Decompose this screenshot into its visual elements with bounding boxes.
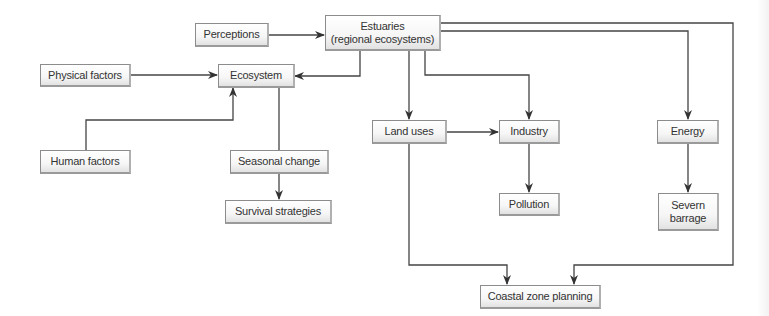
node-coastal-zone-planning: Coastal zone planning (480, 285, 601, 309)
node-label: Pollution (509, 198, 549, 211)
edge-estuaries-industry (425, 51, 529, 119)
node-human-factors: Human factors (40, 150, 131, 174)
page-edge-shadow (757, 0, 769, 316)
node-pollution: Pollution (499, 193, 560, 216)
node-land-uses: Land uses (372, 120, 447, 144)
edge-human-ecosystem (86, 88, 233, 150)
node-label: Seasonal change (238, 155, 320, 168)
edge-estuaries-coastal (441, 23, 733, 284)
node-seasonal-change: Seasonal change (230, 150, 329, 174)
node-label: Land uses (385, 125, 434, 138)
node-industry: Industry (499, 120, 560, 144)
node-label: Survival strategies (235, 205, 321, 218)
node-label: Ecosystem (230, 69, 282, 82)
node-physical-factors: Physical factors (40, 64, 131, 87)
node-survival-strategies: Survival strategies (225, 200, 332, 224)
node-estuaries: Estuaries (regional ecosystems) (325, 15, 441, 51)
node-energy: Energy (657, 120, 719, 144)
node-label: Severn barrage (670, 199, 707, 225)
node-label: Coastal zone planning (488, 290, 593, 303)
node-severn-barrage: Severn barrage (658, 193, 719, 231)
node-label: Estuaries (regional ecosystems) (331, 20, 434, 46)
node-label: Energy (671, 125, 705, 138)
node-label: Human factors (51, 155, 120, 168)
edge-landuses-coastal (409, 144, 507, 284)
node-label: Industry (510, 125, 548, 138)
node-label: Perceptions (204, 28, 260, 41)
node-perceptions: Perceptions (195, 23, 269, 47)
node-ecosystem: Ecosystem (218, 64, 295, 88)
estuaries-concept-diagram: Perceptions Estuaries (regional ecosyste… (0, 0, 769, 316)
node-label: Physical factors (48, 69, 122, 82)
edge-estuaries-ecosystem (295, 51, 360, 76)
